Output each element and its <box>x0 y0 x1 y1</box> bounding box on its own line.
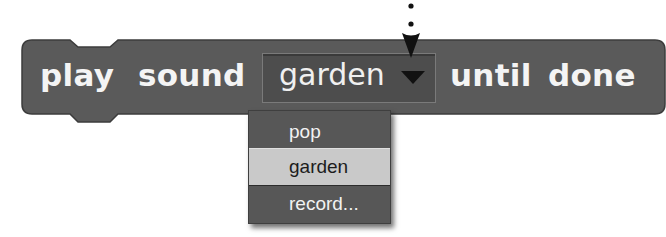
menu-item-garden[interactable]: garden <box>249 148 390 186</box>
sound-dropdown-menu: pop garden record... <box>248 110 391 224</box>
scratch-stage: play sound garden until done pop garden … <box>0 0 666 237</box>
menu-item-record[interactable]: record... <box>249 186 390 222</box>
menu-item-pop[interactable]: pop <box>249 115 390 149</box>
